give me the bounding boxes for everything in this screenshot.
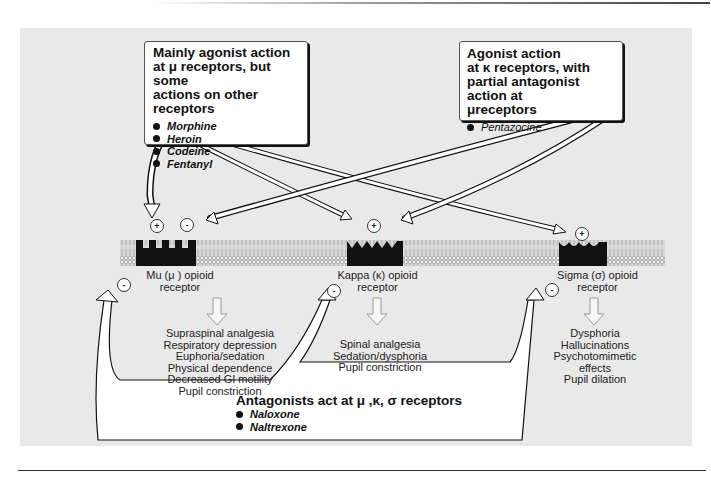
drug-naloxone: Naloxone [250, 408, 300, 421]
drug-fentanyl: Fentanyl [167, 158, 212, 171]
bullet-icon [153, 135, 160, 142]
drug-item: Morphine [153, 120, 299, 133]
bullet-icon [153, 123, 160, 130]
mu-agonist-box: Mainly agonist action at μ receptors, bu… [144, 41, 308, 145]
effect-item: Dysphoria [540, 328, 650, 340]
mu-agonist-title-3: actions on other receptors [153, 88, 299, 116]
bullet-icon [153, 148, 160, 155]
sigma-effect-arrow [584, 298, 604, 325]
drug-item: Naloxone [236, 408, 526, 421]
drug-naltrexone: Naltrexone [250, 421, 307, 434]
drug-heroin: Heroin [167, 133, 202, 146]
bullet-icon [153, 160, 160, 167]
sigma-effects-list: Dysphoria Hallucinations Psychotomimetic… [540, 328, 650, 386]
kappa-agonist-title-4: μreceptors [467, 103, 615, 117]
mu-label-line-2: receptor [125, 281, 235, 293]
bullet-icon [236, 423, 243, 430]
bottom-rule [18, 470, 706, 471]
bullet-icon [236, 411, 243, 418]
kappa-label-line-2: receptor [320, 281, 435, 293]
mu-agonist-title-2: at μ receptors, but some [153, 60, 299, 88]
drug-codeine: Codeine [167, 145, 210, 158]
kappa-label-line-1: Kappa (κ) opioid [320, 269, 435, 281]
drug-item: Fentanyl [153, 158, 299, 171]
mu-label-line-1: Mu (μ ) opioid [125, 269, 235, 281]
kappa-agonist-box: Agonist action at κ receptors, with part… [459, 41, 623, 121]
drug-morphine: Morphine [167, 120, 217, 133]
kappa-agonist-title-3: partial antagonist action at [467, 75, 615, 103]
mu-agonist-title-1: Mainly agonist action [153, 46, 299, 60]
effect-item: Spinal analgesia [320, 339, 440, 351]
sigma-plus-sign: + [575, 227, 589, 241]
kappa-receptor-shape [347, 241, 403, 266]
kappa-agonist-title-1: Agonist action [467, 47, 615, 61]
drug-item: Codeine [153, 145, 299, 158]
kappa-receptor-label: Kappa (κ) opioid receptor [320, 269, 435, 293]
kappa-agonist-title-2: at κ receptors, with [467, 61, 615, 75]
mu-effects-list: Supraspinal analgesia Respiratory depres… [150, 328, 290, 397]
kappa-effect-arrow [367, 298, 387, 325]
mu-effect-arrow [207, 298, 227, 325]
effect-item: Decreased GI motility [150, 374, 290, 386]
antagonist-box: Antagonists act at μ ,κ, σ receptors Nal… [236, 393, 526, 433]
kappa-plus-sign: + [367, 219, 381, 233]
sigma-label-line-2: receptor [540, 281, 655, 293]
effect-item: Supraspinal analgesia [150, 328, 290, 340]
drug-item: Naltrexone [236, 421, 526, 434]
mu-minus-sign: - [180, 218, 194, 232]
kappa-effects-list: Spinal analgesia Sedation/dysphoria Pupi… [320, 339, 440, 374]
drug-item: Pentazocine [467, 121, 615, 134]
effect-item: Psychotomimetic [540, 351, 650, 363]
effect-item: Pupil dilation [540, 374, 650, 386]
antagonist-title: Antagonists act at μ ,κ, σ receptors [236, 393, 526, 408]
drug-pentazocine: Pentazocine [481, 121, 542, 134]
drug-item: Heroin [153, 133, 299, 146]
sigma-receptor-label: Sigma (σ) opioid receptor [540, 269, 655, 293]
effect-item: Pupil constriction [320, 362, 440, 374]
bullet-icon [467, 124, 474, 131]
sigma-label-line-1: Sigma (σ) opioid [540, 269, 655, 281]
mu-plus-sign: + [150, 219, 164, 233]
mu-receptor-label: Mu (μ ) opioid receptor [125, 269, 235, 293]
effect-item: Euphoria/sedation [150, 351, 290, 363]
